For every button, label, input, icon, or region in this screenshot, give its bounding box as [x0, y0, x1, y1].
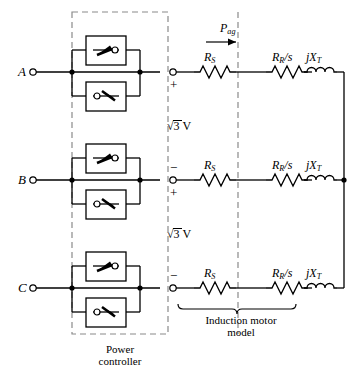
power-controller-caption-line2: controller [65, 356, 175, 367]
polarity-b-upper: − [170, 161, 177, 174]
label-rs-phase-c: RS [204, 267, 215, 281]
power-controller-caption: Power controller [65, 344, 175, 367]
label-jxt-phase-b: jXT [306, 159, 321, 173]
rs-sub-c: S [211, 272, 215, 281]
terminal-label-c: C [18, 281, 27, 294]
neutral-node [341, 177, 346, 182]
rr-suffix-c: /s [284, 266, 292, 280]
radical-sign-ab: √ [166, 119, 174, 133]
radical-sign-bc: √ [166, 227, 174, 241]
power-flow-label: Pag [220, 22, 236, 36]
motor-model-caption-line1: Induction motor [186, 315, 296, 326]
label-jxt-phase-c: jXT [306, 267, 321, 281]
circuit-diagram: A B C Pag RS RR/s jXT RS RR/s jXT RS RR/… [0, 0, 353, 380]
voltage-text-ab: 3 V [174, 119, 191, 133]
polarity-b-lower: + [170, 186, 177, 199]
polarity-c-upper: − [170, 269, 177, 282]
power-flow-sub: ag [227, 27, 235, 36]
label-rr-s-phase-b: RR/s [272, 159, 292, 173]
motor-model-brace [178, 304, 296, 314]
label-rs-phase-b: RS [204, 159, 215, 173]
jxt-sub-a: T [317, 56, 322, 65]
polarity-a-lower: + [170, 78, 177, 91]
node-a-plus [170, 69, 176, 75]
voltage-text-bc: 3 V [174, 227, 191, 241]
terminal-b-connector [30, 177, 36, 183]
jxt-base-c: jX [306, 266, 317, 280]
node-b-terminal [170, 177, 176, 183]
voltage-label-bc: √3 V [166, 228, 191, 240]
jxt-sub-b: T [317, 164, 322, 173]
terminal-a-connector [30, 69, 36, 75]
rr-suffix-b: /s [284, 158, 292, 172]
power-flow-arrow-head [228, 39, 236, 46]
terminal-label-a: A [18, 65, 26, 78]
voltage-label-ab: √3 V [166, 120, 191, 132]
label-rs-phase-a: RS [204, 51, 215, 65]
label-jxt-phase-a: jXT [306, 51, 321, 65]
jxt-base-b: jX [306, 158, 317, 172]
label-rr-s-phase-c: RR/s [272, 267, 292, 281]
jxt-base-a: jX [306, 50, 317, 64]
jxt-sub-c: T [317, 272, 322, 281]
rr-suffix-a: /s [284, 50, 292, 64]
power-controller-caption-line1: Power [65, 344, 175, 355]
motor-model-caption-line2: model [186, 327, 296, 338]
terminal-label-b: B [18, 173, 26, 186]
node-c-terminal [170, 285, 176, 291]
rs-sub-a: S [211, 56, 215, 65]
label-rr-s-phase-a: RR/s [272, 51, 292, 65]
terminal-c-connector [30, 285, 36, 291]
rs-sub-b: S [211, 164, 215, 173]
motor-model-caption: Induction motor model [186, 315, 296, 338]
